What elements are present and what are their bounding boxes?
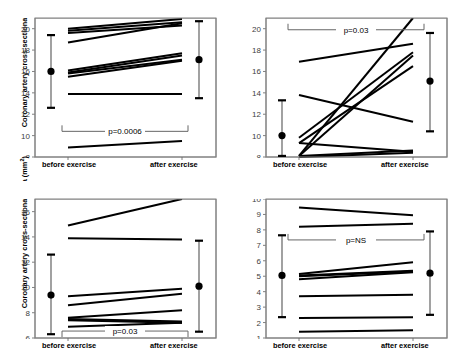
y-tick-label: 16 — [21, 208, 30, 217]
y-tick-label: 14 — [252, 89, 261, 98]
y-tick-label: 4 — [257, 288, 262, 297]
x-tick-label-before: before exercise — [273, 160, 327, 169]
y-axis-label-exponent: 2 — [19, 158, 25, 161]
subject-line — [299, 330, 413, 332]
p-value-label: p=NS — [346, 236, 366, 245]
plot-area: 8101214161820p=0.03 — [231, 0, 461, 181]
mean-marker — [426, 270, 433, 277]
plot-frame — [35, 199, 216, 338]
mean-marker — [278, 132, 285, 139]
mean-with-error-bar — [426, 231, 434, 314]
panel-lcx-proximal: Left circumflex coronary artery (proxima… — [231, 181, 461, 362]
y-tick-label: 10 — [252, 132, 261, 141]
p-value-label: p=0.03 — [113, 327, 138, 336]
panel-lad-proximal: Left anterior descending coronary artery… — [0, 181, 230, 362]
top-mask — [0, 0, 230, 18]
subject-line — [299, 143, 413, 152]
multi-panel-figure: Left main coronary artery Coronary arter… — [0, 0, 461, 362]
y-tick-label: 14 — [21, 89, 30, 98]
y-tick-label: 16 — [21, 67, 30, 76]
y-tick-label: 8 — [26, 309, 31, 318]
mean-with-error-bar — [426, 33, 434, 131]
panel-rca-proximal: Right coronary artery (proximal) 8101214… — [231, 0, 461, 181]
y-tick-label: 12 — [252, 110, 261, 119]
y-tick-label: 18 — [21, 46, 30, 55]
x-tick-label-after: after exercise — [150, 341, 198, 350]
y-tick-label: 12 — [21, 110, 30, 119]
p-value-label: p=0.0006 — [108, 127, 142, 136]
y-tick-label: 6 — [257, 257, 262, 266]
subject-line — [299, 55, 413, 156]
top-mask — [0, 181, 230, 199]
subject-line — [68, 141, 182, 147]
mean-with-error-bar — [195, 241, 203, 332]
mean-marker — [278, 272, 285, 279]
y-tick-label: 2 — [257, 319, 262, 328]
subject-line — [299, 317, 413, 318]
x-tick-label-before: before exercise — [273, 341, 327, 350]
subject-line — [299, 295, 413, 297]
y-tick-label: 8 — [257, 226, 262, 235]
subject-line — [68, 310, 182, 318]
plot-area: 12345678910p=NS — [231, 181, 461, 362]
mean-marker — [195, 56, 202, 63]
x-tick-label-before: before exercise — [42, 160, 96, 169]
y-tick-label: 3 — [257, 303, 262, 312]
plot-area: 8101214161820p=0.0006 — [0, 0, 230, 181]
plot-frame — [35, 199, 216, 338]
mean-with-error-bar — [278, 235, 286, 317]
subject-line — [299, 224, 413, 227]
subject-line — [299, 207, 413, 215]
mean-with-error-bar — [47, 35, 55, 108]
subject-line — [68, 238, 182, 239]
x-tick-label-after: after exercise — [381, 160, 429, 169]
y-axis-label-close: ) — [20, 156, 29, 158]
plot-area: 6810121416p=0.03 — [0, 181, 230, 362]
subject-line — [299, 18, 413, 156]
x-tick-label-before: before exercise — [42, 341, 96, 350]
subject-line — [299, 52, 413, 138]
x-tick-label-after: after exercise — [150, 160, 198, 169]
x-tick-label-after: after exercise — [381, 341, 429, 350]
top-mask — [231, 0, 461, 18]
mean-marker — [195, 283, 202, 290]
subject-line — [299, 95, 413, 122]
subject-line — [299, 44, 413, 62]
p-value-label: p=0.03 — [344, 26, 369, 35]
mean-with-error-bar — [278, 100, 286, 156]
y-tick-label: 10 — [21, 283, 30, 292]
y-tick-label: 10 — [21, 132, 30, 141]
y-tick-label: 18 — [252, 46, 261, 55]
top-mask — [231, 181, 461, 199]
y-tick-label: 12 — [21, 258, 30, 267]
y-tick-label: 5 — [257, 272, 262, 281]
mean-with-error-bar — [195, 21, 203, 98]
mean-marker — [47, 291, 54, 298]
y-tick-label: 20 — [252, 25, 261, 34]
mean-with-error-bar — [47, 255, 55, 335]
y-tick-label: 14 — [21, 233, 30, 242]
y-tick-label: 9 — [257, 210, 262, 219]
mean-marker — [426, 77, 433, 84]
y-tick-label: 7 — [257, 241, 262, 250]
y-tick-label: 16 — [252, 67, 261, 76]
mean-marker — [47, 68, 54, 75]
panel-left-main: Left main coronary artery Coronary arter… — [0, 0, 230, 181]
y-tick-label: 20 — [21, 25, 30, 34]
subject-line — [68, 199, 182, 226]
